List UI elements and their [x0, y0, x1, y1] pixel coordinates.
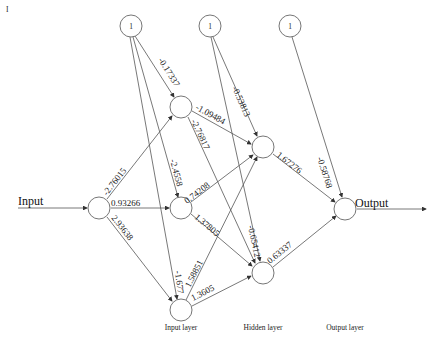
weight-h2a-out: 1.67276: [275, 150, 305, 176]
weight-h1a-h2b: -2.76817: [189, 118, 212, 152]
hidden1-node-a: [170, 96, 192, 118]
input-node: [88, 197, 110, 219]
edge-in-h1c: [107, 217, 172, 301]
hidden1-node-c: [170, 299, 192, 321]
edge-h2b-out: [273, 216, 336, 267]
input-label: Input: [18, 194, 44, 208]
weight-b2-h2a: -0.53813: [230, 85, 252, 119]
weight-b1-h1b: -2.4558: [168, 158, 185, 188]
neural-network-diagram: I 1 1 1 Input Output -2.76015 0.93266 2.…: [0, 0, 443, 346]
weight-b1-h1a: -0.17337: [156, 56, 182, 89]
weight-h1b-h2b: 1.37805: [193, 212, 222, 239]
bias-label-1: 1: [129, 22, 133, 31]
weight-b2-h2b: -0.65412: [246, 224, 262, 258]
hidden2-node-a: [252, 136, 274, 158]
weight-b3-out: -0.58768: [315, 156, 335, 190]
bias-label-2: 1: [208, 22, 212, 31]
output-node: [334, 198, 356, 220]
bias-label-3: 1: [288, 22, 292, 31]
weight-in-h1c: 2.93638: [109, 213, 135, 243]
output-layer-label: Output layer: [326, 323, 364, 332]
output-label: Output: [355, 196, 389, 210]
weight-in-h1b: 0.93266: [111, 198, 141, 208]
input-layer-label: Input layer: [165, 323, 198, 332]
hidden-layer-label: Hidden layer: [244, 323, 283, 332]
weight-in-h1a: -2.76015: [101, 165, 129, 197]
weight-h1b-h2a: 0.74208: [182, 180, 212, 206]
weight-h1c-h2a: 1.58851: [183, 258, 205, 289]
corner-mark: I: [6, 5, 9, 14]
